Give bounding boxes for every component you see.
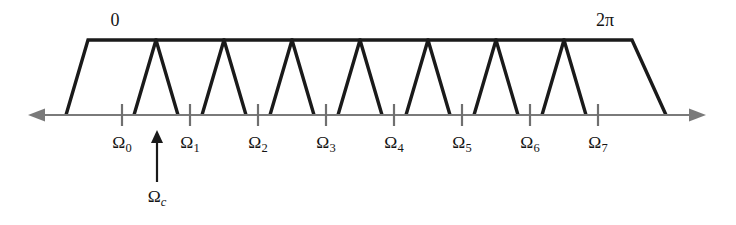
- filter-bank-diagram: Ω0Ω1Ω2Ω3Ω4Ω5Ω6Ω7 Ωc 02π: [0, 0, 736, 225]
- figure-container: Ω0Ω1Ω2Ω3Ω4Ω5Ω6Ω7 Ωc 02π: [0, 0, 736, 225]
- label-period: 2π: [596, 10, 614, 30]
- label-origin: 0: [111, 10, 120, 30]
- figure-background: [0, 0, 736, 225]
